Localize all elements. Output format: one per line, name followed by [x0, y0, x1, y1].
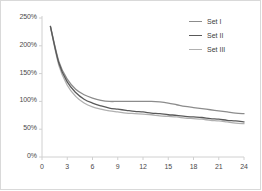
legend-color-swatch [189, 49, 202, 50]
legend-item: Set III [189, 42, 255, 56]
y-axis-tick-label: 0% [7, 152, 37, 159]
y-axis-tick-label: 200% [7, 41, 37, 48]
x-axis-tick-label: 6 [85, 163, 101, 170]
x-axis-tick-label: 12 [135, 163, 151, 170]
y-axis-tick-label: 150% [7, 69, 37, 76]
chart-legend: Set I Set II Set III [189, 14, 255, 56]
x-axis-tick-label: 18 [186, 163, 202, 170]
legend-color-swatch [189, 21, 202, 22]
y-axis-tick-label: 50% [7, 124, 37, 131]
x-axis-tick-label: 0 [34, 163, 50, 170]
x-axis-tick-label: 24 [236, 163, 252, 170]
x-axis-tick-label: 15 [160, 163, 176, 170]
legend-color-swatch [189, 35, 202, 36]
legend-label: Set I [207, 18, 221, 25]
legend-item: Set II [189, 28, 255, 42]
chart-container: 0%50%100%150%200%250% 03691215182124 Set… [0, 0, 261, 190]
legend-label: Set III [207, 46, 225, 53]
legend-item: Set I [189, 14, 255, 28]
x-axis-tick-label: 21 [211, 163, 227, 170]
y-axis-tick-label: 250% [7, 13, 37, 20]
x-axis-tick-label: 9 [110, 163, 126, 170]
y-axis-tick-label: 100% [7, 96, 37, 103]
x-axis-tick-label: 3 [59, 163, 75, 170]
legend-label: Set II [207, 32, 223, 39]
